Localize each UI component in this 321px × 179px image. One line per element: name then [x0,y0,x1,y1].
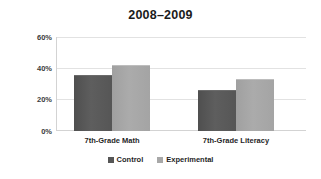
legend-item-control[interactable]: Control [108,155,144,164]
y-axis: 60% 40% 20% 0% [0,0,52,179]
x-tick-label-math: 7th-Grade Math [74,136,150,145]
legend-label-control: Control [117,155,144,164]
y-tick-label: 20% [6,95,52,104]
bar-experimental-1[interactable] [236,79,274,131]
x-axis: 7th-Grade Math 7th-Grade Literacy [56,136,305,150]
x-tick-label-literacy: 7th-Grade Literacy [198,136,274,145]
bar-control-1[interactable] [198,90,236,131]
chart-legend: Control Experimental [0,155,321,164]
bars-layer [56,37,305,131]
legend-label-experimental: Experimental [166,155,213,164]
bar-group-0 [74,37,150,131]
bar-group-1 [198,37,274,131]
legend-swatch-experimental-icon [157,157,163,163]
legend-item-experimental[interactable]: Experimental [157,155,213,164]
bar-experimental-0[interactable] [112,65,150,131]
y-tick-label: 60% [6,33,52,42]
bar-control-0[interactable] [74,75,112,131]
y-tick-label: 40% [6,64,52,73]
bar-chart: 2008–2009 60% 40% 20% 0% 7th-Grade Math … [0,0,321,179]
y-tick-label: 0% [6,127,52,136]
legend-swatch-control-icon [108,157,114,163]
